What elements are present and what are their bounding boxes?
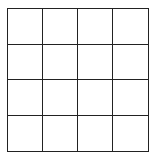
grid-cell	[8, 116, 43, 152]
grid-cell	[43, 9, 78, 45]
grid-cell	[78, 45, 113, 81]
grid-cell	[43, 116, 78, 152]
grid-cell	[8, 45, 43, 81]
grid-cell	[113, 80, 148, 116]
grid-cell	[113, 45, 148, 81]
grid-cell	[113, 9, 148, 45]
grid-cell	[78, 9, 113, 45]
grid-cell	[43, 80, 78, 116]
grid-cell	[8, 80, 43, 116]
grid-cell	[78, 80, 113, 116]
grid-cell	[113, 116, 148, 152]
grid-cell	[78, 116, 113, 152]
grid-cell	[8, 9, 43, 45]
grid-cell	[43, 45, 78, 81]
grid-4x4	[7, 8, 149, 152]
